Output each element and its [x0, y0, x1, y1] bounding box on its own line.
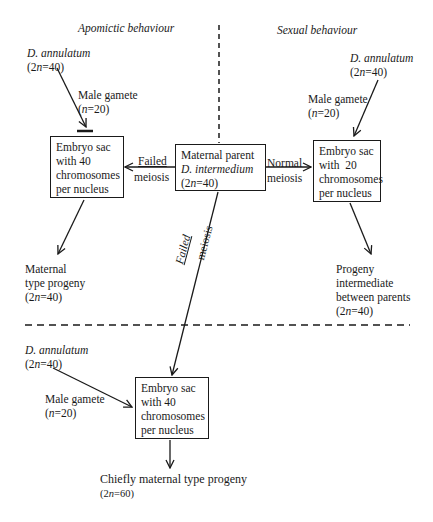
edge-label-failed: Failed [138, 154, 167, 168]
heading-apomictic: Apomictic behaviour [78, 21, 174, 35]
apomictic-gamete-chromosomes: (n=20) [78, 102, 109, 116]
maternal-parent-box: Maternal parent D. intermedium (2n=40) [175, 144, 266, 191]
sexual-progeny-line2: intermediate [336, 276, 393, 290]
apomictic-progeny-line1: Maternal [25, 262, 67, 276]
embryo-sac-apomictic: Embryo sac with 40 chromosomes per nucle… [50, 136, 124, 198]
apomictic-donor-name: D. annulatum [27, 46, 90, 60]
embryo-sac-sexual: Embryo sac with 20 chromosomes per nucle… [313, 140, 381, 202]
sexual-donor-name: D. annulatum [350, 51, 413, 65]
sexual-progeny-line1: Progeny [336, 262, 374, 276]
sexual-gamete-chromosomes: (n=20) [308, 106, 339, 120]
lower-progeny-line1: Chiefly maternal type progeny [100, 472, 247, 486]
lower-gamete-label: Male gamete [45, 392, 105, 406]
sexual-donor-chromosomes: (2n=40) [350, 65, 387, 79]
lower-progeny-chromosomes: (2n=60) [100, 487, 134, 501]
lower-gamete-chromosomes: (n=20) [45, 406, 76, 420]
apomictic-progeny-chromosomes: (2n=40) [25, 290, 62, 304]
heading-sexual: Sexual behaviour [277, 23, 357, 37]
edge-label-meiosis: meiosis [134, 170, 169, 184]
lower-donor-chromosomes: (2n=40) [25, 357, 62, 371]
apomictic-progeny-line2: type progeny [25, 276, 85, 290]
apomictic-gamete-label: Male gamete [78, 88, 138, 102]
lower-donor-name: D. annulatum [25, 343, 88, 357]
embryo-sac-lower: Embryo sac with 40 chromosomes per nucle… [135, 377, 209, 439]
sexual-progeny-line3: between parents [336, 290, 410, 304]
edge-label-meiosis-normal: meiosis [267, 171, 302, 185]
edge-label-normal: Normal [267, 156, 302, 170]
sexual-progeny-chromosomes: (2n=40) [336, 304, 373, 318]
apomictic-donor-chromosomes: (2n=40) [27, 60, 64, 74]
sexual-gamete-label: Male gamete [308, 92, 368, 106]
